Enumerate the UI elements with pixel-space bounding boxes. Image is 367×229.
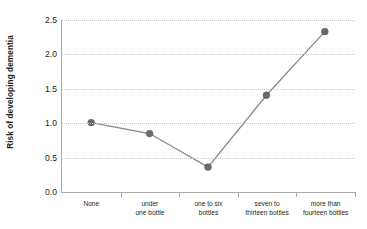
x-tick-label-line: seven to — [245, 200, 288, 209]
x-tick-label: underone bottle — [135, 200, 164, 217]
x-tick-label-line: one bottle — [135, 209, 164, 218]
x-tick-label-line: under — [135, 200, 164, 209]
gridline-y — [62, 158, 355, 159]
data-point-marker — [205, 164, 212, 171]
x-tick-label: seven tothirteen bottles — [245, 200, 288, 217]
data-point-marker — [321, 28, 328, 35]
data-series-line — [62, 20, 355, 192]
x-tick-label-line: more than — [303, 200, 348, 209]
x-tick-mark — [355, 192, 356, 197]
data-point-marker — [263, 92, 270, 99]
chart-figure: Risk of developing dementia 0.00.51.01.5… — [0, 0, 367, 229]
gridline-y — [62, 54, 355, 55]
y-tick-label: 2.0 — [45, 49, 57, 59]
y-tick-label: 0.0 — [45, 187, 57, 197]
x-tick-label-line: fourteen bottles — [303, 209, 348, 218]
gridline-y — [62, 123, 355, 124]
x-tick-label-line: None — [83, 200, 99, 209]
gridline-y — [62, 89, 355, 90]
y-tick-label: 2.5 — [45, 15, 57, 25]
x-tick-label: one to sixbottles — [194, 200, 222, 217]
x-tick-label: more thanfourteen bottles — [303, 200, 348, 217]
x-tick-label-line: bottles — [194, 209, 222, 218]
y-tick-label: 1.5 — [45, 84, 57, 94]
data-point-marker — [146, 130, 153, 137]
x-tick-label-line: one to six — [194, 200, 222, 209]
x-tick-mark — [296, 192, 297, 197]
y-tick-label: 0.5 — [45, 153, 57, 163]
x-tick-label: None — [83, 200, 99, 209]
x-tick-mark — [121, 192, 122, 197]
y-axis-title: Risk of developing dementia — [4, 0, 18, 192]
x-tick-mark — [179, 192, 180, 197]
gridline-y — [62, 20, 355, 21]
series-polyline — [91, 32, 325, 167]
x-tick-mark — [238, 192, 239, 197]
plot-area: 0.00.51.01.52.02.5Noneunderone bottleone… — [61, 20, 355, 193]
x-tick-label-line: thirteen bottles — [245, 209, 288, 218]
y-tick-label: 1.0 — [45, 118, 57, 128]
